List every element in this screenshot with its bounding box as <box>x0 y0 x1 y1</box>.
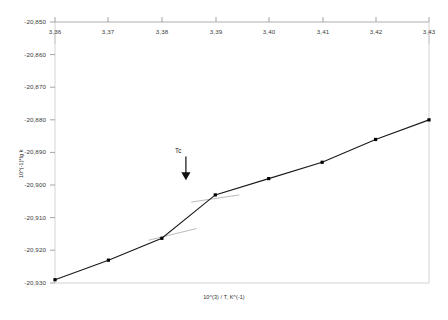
y-tick-label-5: -20,900 <box>0 182 46 188</box>
y-tick-label-2: -20,870 <box>0 84 46 90</box>
x-tick-label-6: 3,42 <box>358 29 394 35</box>
y-axis-ticks <box>50 22 55 283</box>
data-point-6 <box>374 138 377 141</box>
data-point-7 <box>427 118 430 121</box>
y-tick-label-1: -20,860 <box>0 52 46 58</box>
data-point-2 <box>160 237 163 240</box>
x-tick-label-1: 3,37 <box>90 29 126 35</box>
data-series-line <box>55 120 429 280</box>
x-tick-label-3: 3,39 <box>198 29 234 35</box>
x-tick-label-2: 3,38 <box>144 29 180 35</box>
y-axis-title: 10^(-1)*lg k <box>19 149 24 178</box>
x-tick-label-4: 3,40 <box>251 29 287 35</box>
y-tick-label-8: -20,930 <box>0 280 46 286</box>
y-tick-label-7: -20,920 <box>0 247 46 253</box>
y-tick-label-6: -20,910 <box>0 215 46 221</box>
x-axis-title: 10^(3) / T, K^(-1) <box>0 295 448 300</box>
data-point-4 <box>267 177 270 180</box>
chart-container: -20,850 -20,860 -20,870 -20,880 -20,890 … <box>0 0 448 320</box>
data-point-0 <box>53 278 56 281</box>
x-tick-label-5: 3,41 <box>305 29 341 35</box>
y-tick-label-0: -20,850 <box>0 19 46 25</box>
data-point-3 <box>214 193 217 196</box>
tc-annotation-label: Tc <box>175 148 181 154</box>
data-point-5 <box>321 161 324 164</box>
x-tick-label-0: 3,36 <box>37 29 73 35</box>
data-point-1 <box>107 259 110 262</box>
y-tick-label-3: -20,880 <box>0 117 46 123</box>
guide-lines <box>149 195 240 240</box>
x-tick-label-7: 3,43 <box>411 29 447 35</box>
plot-frame <box>55 22 429 283</box>
data-series-markers <box>53 118 430 281</box>
tc-arrow-icon <box>181 157 190 181</box>
chart-svg <box>0 0 448 320</box>
